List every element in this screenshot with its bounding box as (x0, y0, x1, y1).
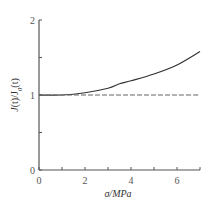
x-tick-label: 2 (83, 175, 88, 186)
x-axis-label: σ/MPa (104, 188, 131, 199)
y-tick-label: 1 (30, 90, 35, 101)
series-solid-line (39, 52, 200, 96)
chart: 0246 012 σ/MPa J(t)/J0(t) (0, 0, 212, 211)
y-tick-label: 0 (30, 165, 35, 176)
x-tick-label: 0 (37, 175, 42, 186)
y-tick-label: 2 (30, 15, 35, 26)
x-tick-label: 4 (129, 175, 134, 186)
x-tick-label: 6 (175, 175, 180, 186)
y-axis-label: J(t)/J0(t) (9, 78, 24, 112)
series-lines (39, 52, 200, 96)
